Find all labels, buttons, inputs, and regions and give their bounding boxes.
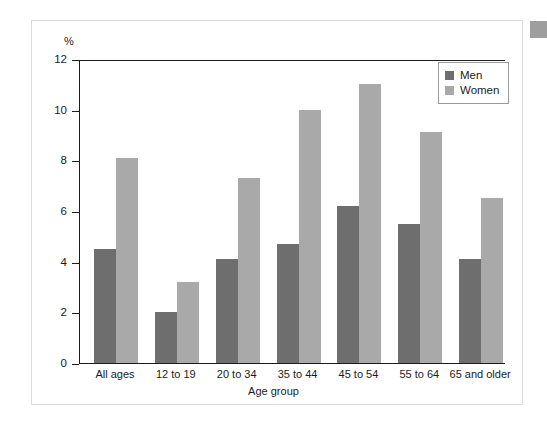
bar-men-0 xyxy=(94,249,116,363)
chart-legend: Men Women xyxy=(438,62,509,104)
bar-women-2 xyxy=(238,178,260,363)
bar-men-5 xyxy=(398,224,420,363)
y-axis-tick: 8 xyxy=(72,161,79,162)
legend-label-women: Women xyxy=(460,85,499,97)
y-axis-tick-label: 10 xyxy=(54,105,72,117)
legend-swatch-women-icon xyxy=(445,86,454,95)
bar-women-5 xyxy=(420,132,442,363)
bar-women-1 xyxy=(177,282,199,363)
plot-area xyxy=(79,60,505,364)
x-axis-title: Age group xyxy=(0,386,547,397)
y-axis-tick: 2 xyxy=(72,313,79,314)
legend-item-women[interactable]: Women xyxy=(445,83,499,98)
bar-men-4 xyxy=(337,206,359,363)
y-axis-tick-label: 2 xyxy=(61,307,72,319)
y-axis-tick-label: 12 xyxy=(54,54,72,66)
bar-men-3 xyxy=(277,244,299,363)
y-axis-tick: 0 xyxy=(72,364,79,365)
chart-figure: % 024681012 All ages12 to 1920 to 3435 t… xyxy=(0,0,547,424)
x-axis-tick-label: 65 and older xyxy=(420,369,540,380)
y-axis-tick-label: 0 xyxy=(61,358,72,370)
y-axis-tick: 6 xyxy=(72,212,79,213)
legend-swatch-men-icon xyxy=(445,71,454,80)
bar-women-3 xyxy=(299,110,321,363)
y-axis-tick: 12 xyxy=(72,60,79,61)
y-axis-unit-label: % xyxy=(64,36,74,47)
legend-label-men: Men xyxy=(460,70,482,82)
y-axis-tick: 4 xyxy=(72,263,79,264)
bar-women-0 xyxy=(116,158,138,363)
bar-women-6 xyxy=(481,198,503,363)
bar-men-1 xyxy=(155,312,177,363)
legend-item-men[interactable]: Men xyxy=(445,68,499,83)
corner-marker xyxy=(530,21,547,38)
bar-women-4 xyxy=(359,84,381,363)
y-axis-tick-label: 4 xyxy=(61,257,72,269)
y-axis-tick: 10 xyxy=(72,111,79,112)
bar-men-6 xyxy=(459,259,481,363)
y-axis-tick-label: 8 xyxy=(61,155,72,167)
y-axis-tick-label: 6 xyxy=(61,206,72,218)
bar-men-2 xyxy=(216,259,238,363)
bars-layer xyxy=(80,61,505,363)
